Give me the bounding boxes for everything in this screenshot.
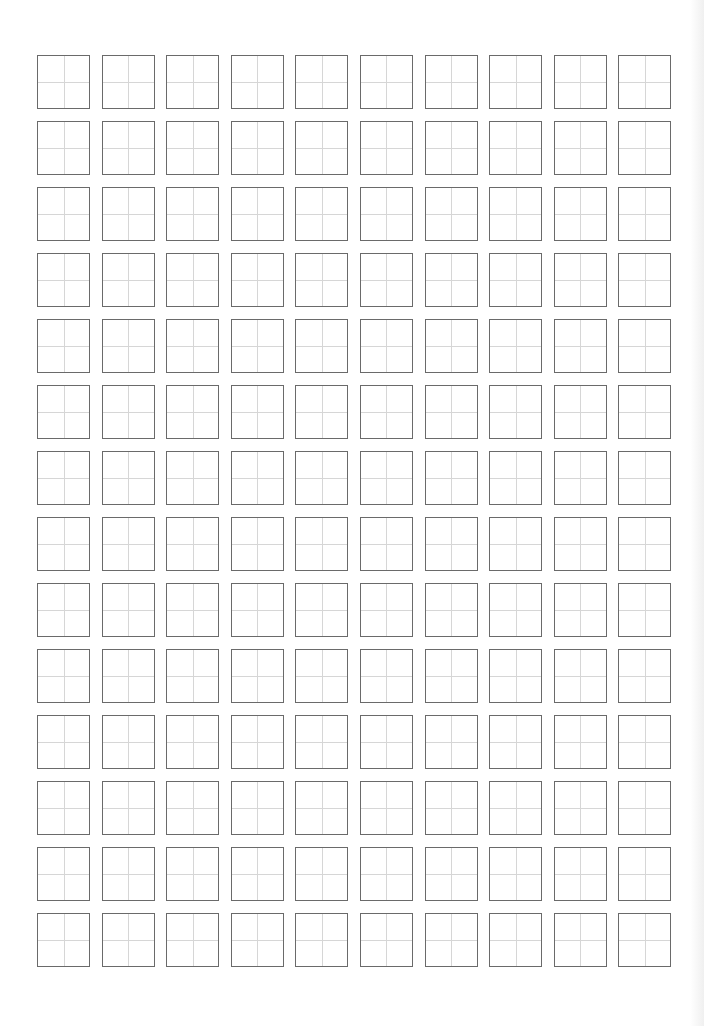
- horizontal-guide-line: [426, 874, 477, 875]
- grid-cell: [554, 913, 607, 967]
- horizontal-guide-line: [232, 280, 283, 281]
- horizontal-guide-line: [103, 808, 154, 809]
- horizontal-guide-line: [232, 82, 283, 83]
- grid-cell: [231, 715, 284, 769]
- horizontal-guide-line: [490, 412, 541, 413]
- horizontal-guide-line: [38, 214, 89, 215]
- grid-cell: [489, 847, 542, 901]
- grid-cell: [360, 451, 413, 505]
- horizontal-guide-line: [619, 412, 670, 413]
- horizontal-guide-line: [167, 148, 218, 149]
- grid-cell: [37, 517, 90, 571]
- grid-cell: [554, 319, 607, 373]
- horizontal-guide-line: [167, 874, 218, 875]
- grid-cell: [166, 781, 219, 835]
- horizontal-guide-line: [232, 676, 283, 677]
- horizontal-guide-line: [619, 742, 670, 743]
- grid-cell: [554, 451, 607, 505]
- horizontal-guide-line: [555, 214, 606, 215]
- horizontal-guide-line: [296, 346, 347, 347]
- horizontal-guide-line: [296, 82, 347, 83]
- grid-cell: [489, 451, 542, 505]
- grid-cell: [295, 847, 348, 901]
- horizontal-guide-line: [619, 214, 670, 215]
- grid-cell: [166, 451, 219, 505]
- grid-cell: [37, 187, 90, 241]
- horizontal-guide-line: [361, 808, 412, 809]
- horizontal-guide-line: [426, 676, 477, 677]
- grid-cell: [102, 385, 155, 439]
- horizontal-guide-line: [296, 280, 347, 281]
- grid-cell: [166, 319, 219, 373]
- horizontal-guide-line: [103, 940, 154, 941]
- grid-cell: [37, 385, 90, 439]
- horizontal-guide-line: [555, 808, 606, 809]
- grid-cell: [489, 253, 542, 307]
- horizontal-guide-line: [555, 478, 606, 479]
- grid-cell: [489, 187, 542, 241]
- horizontal-guide-line: [38, 544, 89, 545]
- horizontal-guide-line: [490, 742, 541, 743]
- grid-cell: [231, 187, 284, 241]
- horizontal-guide-line: [619, 676, 670, 677]
- horizontal-guide-line: [490, 544, 541, 545]
- horizontal-guide-line: [103, 412, 154, 413]
- horizontal-guide-line: [619, 478, 670, 479]
- grid-cell: [166, 913, 219, 967]
- grid-cell: [102, 781, 155, 835]
- horizontal-guide-line: [167, 544, 218, 545]
- grid-cell: [425, 781, 478, 835]
- horizontal-guide-line: [555, 544, 606, 545]
- grid-cell: [425, 121, 478, 175]
- horizontal-guide-line: [167, 610, 218, 611]
- grid-cell: [360, 781, 413, 835]
- grid-cell: [554, 649, 607, 703]
- grid-cell: [425, 715, 478, 769]
- horizontal-guide-line: [296, 544, 347, 545]
- grid-cell: [554, 55, 607, 109]
- grid-cell: [618, 781, 671, 835]
- grid-cell: [37, 583, 90, 637]
- grid-cell: [554, 715, 607, 769]
- grid-cell: [618, 847, 671, 901]
- horizontal-guide-line: [426, 346, 477, 347]
- grid-cell: [102, 319, 155, 373]
- horizontal-guide-line: [490, 214, 541, 215]
- grid-cell: [166, 55, 219, 109]
- grid-cell: [360, 55, 413, 109]
- grid-cell: [360, 583, 413, 637]
- grid-cell: [231, 319, 284, 373]
- horizontal-guide-line: [426, 82, 477, 83]
- horizontal-guide-line: [426, 214, 477, 215]
- grid-cell: [360, 715, 413, 769]
- grid-cell: [425, 451, 478, 505]
- grid-cell: [360, 253, 413, 307]
- grid-cell: [489, 517, 542, 571]
- horizontal-guide-line: [167, 478, 218, 479]
- horizontal-guide-line: [103, 478, 154, 479]
- horizontal-guide-line: [555, 280, 606, 281]
- grid-cell: [554, 253, 607, 307]
- grid-cell: [166, 715, 219, 769]
- grid-cell: [618, 451, 671, 505]
- grid-cell: [425, 847, 478, 901]
- horizontal-guide-line: [361, 214, 412, 215]
- horizontal-guide-line: [103, 742, 154, 743]
- horizontal-guide-line: [38, 346, 89, 347]
- grid-cell: [360, 913, 413, 967]
- grid-cell: [37, 121, 90, 175]
- grid-cell: [295, 517, 348, 571]
- grid-cell: [425, 913, 478, 967]
- grid-cell: [37, 253, 90, 307]
- grid-cell: [425, 319, 478, 373]
- grid-cell: [166, 649, 219, 703]
- grid-cell: [360, 649, 413, 703]
- horizontal-guide-line: [38, 940, 89, 941]
- horizontal-guide-line: [232, 610, 283, 611]
- horizontal-guide-line: [361, 346, 412, 347]
- horizontal-guide-line: [361, 610, 412, 611]
- horizontal-guide-line: [38, 280, 89, 281]
- grid-cell: [102, 517, 155, 571]
- grid-cell: [102, 715, 155, 769]
- grid-cell: [489, 649, 542, 703]
